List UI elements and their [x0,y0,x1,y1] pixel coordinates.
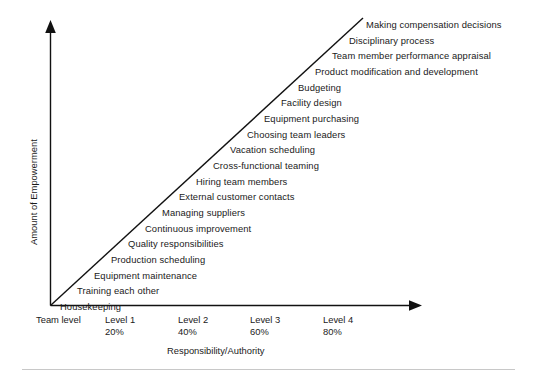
x-tick-label: Team level [36,314,81,326]
x-tick-label: Level 1 [105,314,135,326]
footer-divider [22,369,515,370]
step-label: Equipment maintenance [94,270,197,281]
x-axis-arrow-icon [409,300,422,311]
x-tick-level-1: Level 1 20% [105,314,135,339]
empowerment-chart-figure: Amount of Empowerment Making compensatio… [0,0,537,378]
step-label: Managing suppliers [162,207,245,218]
step-label: Product modification and development [315,66,478,77]
y-axis-title: Amount of Empowerment [28,139,39,245]
x-tick-label: Level 3 [250,314,280,326]
x-tick-percent: 20% [105,326,135,338]
x-tick-level-3: Level 3 60% [250,314,280,339]
step-label: Cross-functional teaming [213,160,319,171]
step-label: External customer contacts [179,191,295,202]
x-tick-label: Level 2 [178,314,208,326]
x-tick-level-2: Level 2 40% [178,314,208,339]
y-axis-arrow-icon [45,20,56,33]
step-label: Training each other [77,285,159,296]
step-label: Quality responsibilities [128,238,224,249]
step-label: Housekeeping [60,301,121,312]
x-axis-title: Responsibility/Authority [167,345,264,356]
x-tick-team-level: Team level [36,314,81,326]
x-tick-level-4: Level 4 80% [323,314,353,339]
step-label: Choosing team leaders [247,129,345,140]
step-label: Equipment purchasing [264,113,359,124]
step-label: Production scheduling [111,254,205,265]
step-label: Continuous improvement [145,223,251,234]
x-tick-percent: 80% [323,326,353,338]
step-label: Hiring team members [196,176,287,187]
step-label: Budgeting [298,82,341,93]
step-label: Disciplinary process [349,35,434,46]
x-tick-percent: 60% [250,326,280,338]
step-label: Vacation scheduling [230,144,315,155]
step-label: Team member performance appraisal [332,50,491,61]
step-label: Making compensation decisions [366,19,502,30]
x-tick-label: Level 4 [323,314,353,326]
x-tick-percent: 40% [178,326,208,338]
step-label: Facility design [281,97,342,108]
